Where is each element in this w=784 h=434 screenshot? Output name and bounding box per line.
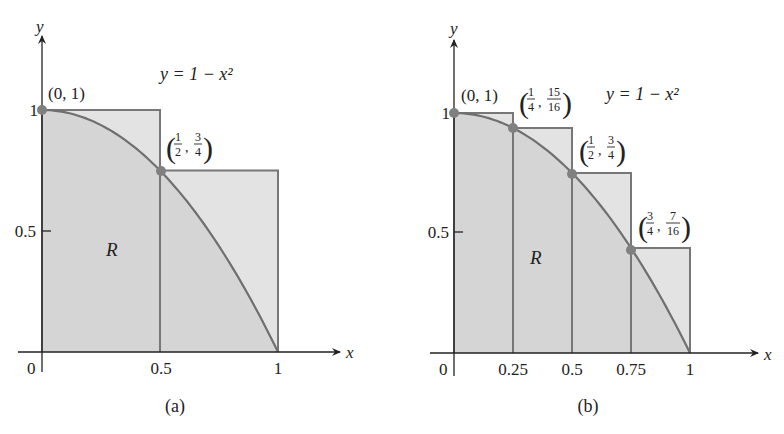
svg-text:4: 4 [528,100,534,114]
svg-text:4: 4 [647,224,653,238]
x-tick-label: 0.75 [616,360,646,379]
svg-text:): ) [681,210,691,244]
x-tick-label: 0.5 [561,360,582,379]
y-tick-label: 1 [30,101,39,120]
svg-text:4: 4 [608,148,614,162]
origin-label: 0 [27,359,36,378]
x-tick-label: 1 [274,359,283,378]
svg-text:1: 1 [528,85,534,99]
x-tick-label: 0.5 [150,359,171,378]
svg-text:16: 16 [667,224,679,238]
point-label-fraction: ( 3 4 , 7 16 ) [638,209,691,244]
svg-text:2: 2 [588,148,594,162]
point-label-fraction: ( 1 4 , 15 16 ) [519,85,572,120]
svg-text:3: 3 [608,133,614,147]
point-half [567,169,577,179]
panel-a: x y 0 0.5 1 0.5 1 (0, 1) ( 1 2 , 3 4 ) [15,17,354,417]
y-axis-label: y [448,19,458,38]
svg-text:,: , [185,140,189,155]
point-label: (0, 1) [48,84,85,103]
y-axis-label: y [34,17,44,36]
point-threequarter [626,245,636,255]
svg-text:): ) [562,86,572,120]
x-tick-label: 0.25 [498,360,528,379]
function-label: y = 1 − x² [158,64,233,84]
panel-caption: (a) [165,396,185,417]
svg-text:,: , [538,95,542,110]
point-0-1 [449,108,459,118]
function-label: y = 1 − x² [604,84,679,104]
svg-text:): ) [616,134,626,168]
svg-text:): ) [203,131,213,165]
y-tick-label: 0.5 [428,223,449,242]
point-quarter [508,123,518,133]
svg-text:7: 7 [670,209,676,223]
x-axis-label: x [345,343,354,362]
svg-text:2: 2 [175,145,181,159]
svg-text:3: 3 [195,130,201,144]
figure: x y 0 0.5 1 0.5 1 (0, 1) ( 1 2 , 3 4 ) [0,0,784,434]
svg-text:16: 16 [548,100,560,114]
svg-text:1: 1 [175,130,181,144]
region-label: R [105,239,118,260]
origin-label: 0 [439,360,448,379]
svg-text:3: 3 [647,209,653,223]
svg-text:1: 1 [588,133,594,147]
svg-text:,: , [657,219,661,234]
x-tick-labels: 0.25 0.5 0.75 1 [498,360,694,379]
svg-text:15: 15 [548,85,560,99]
svg-text:4: 4 [195,145,201,159]
y-tick-label: 1 [442,104,451,123]
point-label: (0, 1) [461,86,498,105]
point-label-fraction: ( 1 2 , 3 4 ) [579,133,626,168]
region-label: R [529,247,542,268]
svg-text:,: , [598,143,602,158]
x-tick-labels: 0.5 1 [150,359,282,378]
x-tick-label: 1 [686,360,695,379]
point-0-1 [37,105,47,115]
panel-b: x y 0 0.25 0.5 0.75 1 0.5 1 (0, 1) ( 1 4… [428,19,772,417]
panel-caption: (b) [578,396,599,417]
x-axis-label: x [763,345,772,364]
point-half-threequarter [156,166,166,176]
y-tick-label: 0.5 [15,222,36,241]
point-label-fraction: ( 1 2 , 3 4 ) [166,130,213,165]
